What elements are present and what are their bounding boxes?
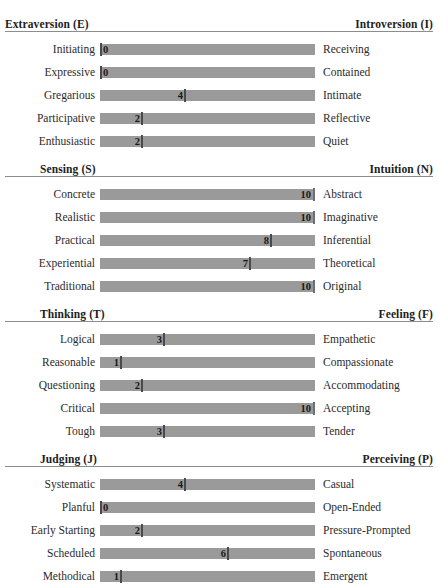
facet-right-label: Inferential: [323, 229, 371, 252]
right-pole-label: Perceiving (P): [363, 453, 433, 465]
facet-score-bar: 10: [100, 189, 315, 200]
section-header: Judging (J)Perceiving (P): [5, 449, 433, 466]
facet-score-marker: 10: [291, 188, 315, 201]
facet-right-label: Accepting: [323, 397, 370, 420]
score-tick-icon: [249, 257, 251, 270]
facet-score-value: 2: [135, 134, 140, 149]
score-tick-icon: [313, 188, 315, 201]
right-pole-label: Introversion (I): [355, 18, 433, 30]
facet-score-marker: 1: [100, 356, 122, 369]
facet-right-label: Casual: [323, 473, 354, 496]
facet-row: Participative2Reflective: [0, 107, 438, 130]
facet-score-bar: 0: [100, 44, 315, 55]
facet-score-bar: 7: [100, 258, 315, 269]
score-tick-icon: [141, 112, 143, 125]
facet-score-marker: 0: [100, 43, 118, 56]
facet-score-bar: 3: [100, 426, 315, 437]
facet-score-value: 3: [157, 332, 162, 347]
score-tick-icon: [184, 89, 186, 102]
facet-row: Practical8Inferential: [0, 229, 438, 252]
facet-row: Early Starting2Pressure-Prompted: [0, 519, 438, 542]
facet-score-value: 6: [221, 546, 226, 561]
score-tick-icon: [184, 478, 186, 491]
facet-score-marker: 0: [100, 66, 118, 79]
facet-right-label: Tender: [323, 420, 355, 443]
section-header: Extraversion (E)Introversion (I): [5, 14, 433, 31]
score-tick-icon: [120, 356, 122, 369]
facet-left-label: Tough: [0, 420, 95, 443]
facet-score-value: 7: [243, 256, 248, 271]
facet-score-marker: 2: [100, 135, 143, 148]
facet-row: Initiating0Receiving: [0, 38, 438, 61]
facet-row: Realistic10Imaginative: [0, 206, 438, 229]
facet-score-bar: 3: [100, 334, 315, 345]
facet-score-value: 10: [301, 401, 312, 416]
facet-score-marker: 10: [291, 402, 315, 415]
facet-left-label: Gregarious: [0, 84, 95, 107]
score-tick-icon: [163, 425, 165, 438]
facet-row: Traditional10Original: [0, 275, 438, 298]
facet-left-label: Questioning: [0, 374, 95, 397]
facet-score-bar: 1: [100, 357, 315, 368]
score-tick-icon: [120, 570, 122, 583]
facet-score-value: 4: [178, 88, 183, 103]
facet-score-bar: 2: [100, 113, 315, 124]
facet-score-marker: 4: [100, 89, 186, 102]
dichotomy-section: Sensing (S)Intuition (N)Concrete10Abstra…: [0, 159, 438, 176]
dichotomy-section: Extraversion (E)Introversion (I)Initiati…: [0, 14, 438, 31]
facet-row: Enthusiastic2Quiet: [0, 130, 438, 153]
facet-right-label: Imaginative: [323, 206, 378, 229]
facet-score-bar: 1: [100, 571, 315, 582]
facet-score-bar: 2: [100, 525, 315, 536]
facet-right-label: Emergent: [323, 565, 368, 586]
facet-score-value: 10: [301, 279, 312, 294]
facet-score-marker: 6: [100, 547, 229, 560]
facet-right-label: Compassionate: [323, 351, 393, 374]
facet-score-value: 1: [114, 355, 119, 370]
facet-left-label: Expressive: [0, 61, 95, 84]
facet-score-marker: 0: [100, 501, 118, 514]
facet-right-label: Abstract: [323, 183, 362, 206]
facet-score-marker: 3: [100, 425, 165, 438]
facet-row: Planful0Open-Ended: [0, 496, 438, 519]
facet-row: Experiential7Theoretical: [0, 252, 438, 275]
score-tick-icon: [227, 547, 229, 560]
facet-left-label: Realistic: [0, 206, 95, 229]
facet-score-value: 1: [114, 569, 119, 584]
facet-score-bar: 10: [100, 212, 315, 223]
facet-score-marker: 2: [100, 524, 143, 537]
facet-right-label: Accommodating: [323, 374, 400, 397]
facet-left-label: Practical: [0, 229, 95, 252]
facet-score-value: 3: [157, 424, 162, 439]
facet-score-value: 0: [103, 42, 108, 57]
right-pole-label: Feeling (F): [379, 308, 433, 320]
facet-left-label: Scheduled: [0, 542, 95, 565]
facet-left-label: Initiating: [0, 38, 95, 61]
facet-score-value: 2: [135, 111, 140, 126]
score-tick-icon: [141, 379, 143, 392]
left-pole-label: Sensing (S): [40, 163, 96, 175]
facet-results-sheet: Extraversion (E)Introversion (I)Initiati…: [0, 0, 438, 586]
facet-left-label: Logical: [0, 328, 95, 351]
facet-score-marker: 10: [291, 211, 315, 224]
score-tick-icon: [141, 524, 143, 537]
facet-row: Gregarious4Intimate: [0, 84, 438, 107]
left-pole-label: Extraversion (E): [5, 18, 89, 30]
facet-score-bar: 4: [100, 479, 315, 490]
facet-left-label: Planful: [0, 496, 95, 519]
facet-score-value: 10: [301, 187, 312, 202]
facet-score-bar: 6: [100, 548, 315, 559]
score-tick-icon: [100, 66, 102, 79]
score-tick-icon: [313, 402, 315, 415]
facet-right-label: Quiet: [323, 130, 349, 153]
score-tick-icon: [100, 501, 102, 514]
facet-row: Questioning2Accommodating: [0, 374, 438, 397]
facet-right-label: Receiving: [323, 38, 370, 61]
score-tick-icon: [313, 211, 315, 224]
facet-score-value: 10: [301, 210, 312, 225]
facet-score-bar: 2: [100, 380, 315, 391]
left-pole-label: Judging (J): [40, 453, 97, 465]
facet-score-value: 0: [103, 500, 108, 515]
facet-row: Critical10Accepting: [0, 397, 438, 420]
dichotomy-section: Judging (J)Perceiving (P)Systematic4Casu…: [0, 449, 438, 466]
